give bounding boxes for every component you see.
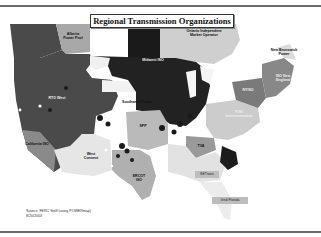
map-title: Regional Transmission Organizations bbox=[90, 14, 234, 28]
label-nyiso: NYISO bbox=[240, 88, 256, 92]
label-iso-ne: ISO New England bbox=[274, 74, 292, 82]
label-california: California ISO bbox=[24, 142, 50, 146]
region-manitoba bbox=[128, 26, 160, 58]
label-ercot: ERCOT ISO bbox=[130, 174, 148, 182]
label-ontario: Ontario Independent Market Operator bbox=[182, 29, 226, 37]
label-setrans: SETrans bbox=[195, 171, 219, 178]
rto-map bbox=[0, 0, 321, 237]
source-date: 8/20/2003 bbox=[26, 214, 91, 219]
bottom-rule bbox=[0, 231, 321, 233]
region-montana-white bbox=[90, 56, 110, 70]
label-rto-west: RTO West bbox=[46, 96, 68, 100]
label-miso: Midwest ISO bbox=[140, 58, 166, 62]
label-spp: SPP bbox=[136, 124, 150, 128]
label-southwest: Southwest Power bbox=[122, 100, 146, 104]
source-note: Source: FERC Staff (using POWERmap) 8/20… bbox=[26, 209, 91, 218]
region-canada-central bbox=[90, 30, 128, 54]
label-new-brunswick: New Brunswick Power bbox=[268, 48, 300, 56]
label-tva: TVA bbox=[195, 144, 207, 148]
label-pjm: PJM Interconnection bbox=[224, 110, 254, 118]
label-westconnect: West Connect bbox=[80, 152, 102, 160]
label-alberta: Alberta Power Pool bbox=[62, 32, 84, 40]
region-pjm bbox=[206, 100, 260, 140]
label-grid-florida: Grid Florida bbox=[212, 197, 248, 204]
source-line: Source: FERC Staff (using POWERmap) bbox=[26, 209, 91, 214]
